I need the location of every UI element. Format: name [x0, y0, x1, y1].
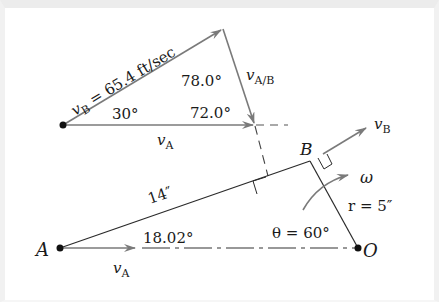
point-O-dot	[355, 245, 362, 252]
origin-dot	[60, 122, 67, 129]
angle-30-label: 30°	[112, 105, 139, 123]
theta-label: θ = 60°	[272, 224, 330, 242]
omega-label: ω	[360, 168, 373, 187]
linkage: A B O 14″ 18.02° θ = 60° r = 5″ ω vA vB	[34, 115, 393, 280]
angle-78-label: 78.0°	[181, 72, 222, 90]
point-A-dot	[57, 245, 64, 252]
right-angle-mark-B	[318, 154, 332, 169]
diagram-frame: vB = 65.4 ft/sec 30° 78.0° 72.0° vA/B vA…	[0, 0, 439, 302]
vA-linkage-label: vA	[113, 259, 130, 280]
vA-label: vA	[157, 131, 174, 152]
point-O-label: O	[363, 240, 378, 261]
point-B-label: B	[299, 139, 313, 159]
omega-rotation-arrow	[303, 175, 348, 210]
vector-triangle: vB = 65.4 ft/sec 30° 78.0° 72.0° vA/B vA	[60, 29, 289, 176]
vB-linkage-arrow	[323, 128, 366, 154]
angle-72-label: 72.0°	[190, 104, 231, 122]
perpendicular-dashed-line	[255, 126, 268, 176]
radius-label: r = 5″	[348, 197, 393, 215]
rod-length-label: 14″	[145, 183, 175, 208]
vAB-label: vA/B	[246, 66, 274, 87]
rod-angle-label: 18.02°	[143, 229, 193, 247]
point-A-label: A	[34, 239, 49, 260]
vB-linkage-label: vB	[374, 115, 391, 136]
diagram-canvas: vB = 65.4 ft/sec 30° 78.0° 72.0° vA/B vA…	[0, 0, 439, 302]
